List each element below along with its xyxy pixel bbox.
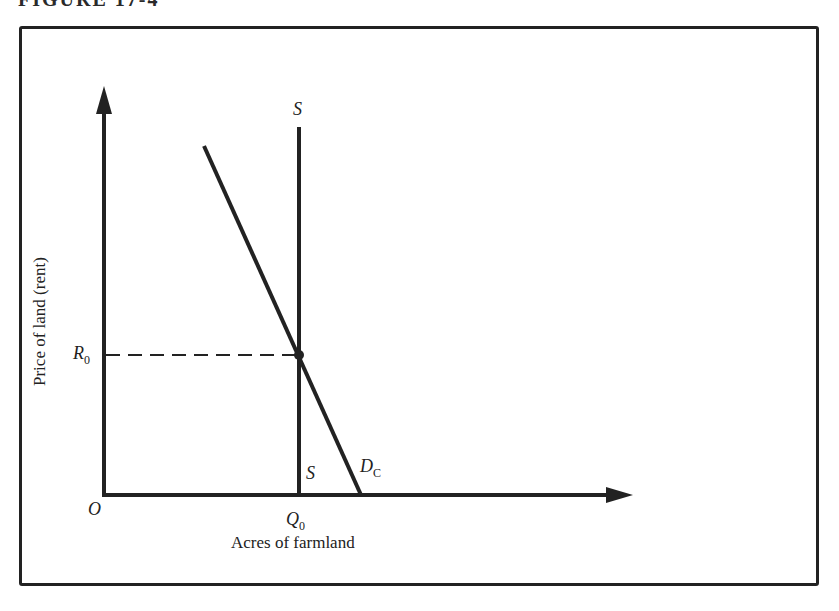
y-axis-title: Price of land (rent) — [30, 257, 50, 386]
demand-label-text: D — [360, 456, 373, 476]
supply-label-bottom: S — [306, 464, 315, 482]
demand-label-sub: C — [373, 466, 381, 480]
quantity-label-sub: 0 — [299, 519, 305, 533]
rent-label-sub: 0 — [84, 353, 90, 367]
x-axis-title: Acres of farmland — [231, 533, 355, 553]
quantity-label-text: Q — [286, 509, 299, 529]
x-axis-arrow-icon — [606, 487, 633, 503]
quantity-label: Q0 — [286, 510, 305, 532]
demand-label: DC — [360, 457, 381, 479]
demand-curve — [204, 146, 361, 495]
y-axis-arrow-icon — [96, 86, 112, 114]
supply-label-top: S — [293, 100, 302, 118]
rent-label-text: R — [73, 343, 84, 363]
origin-label: O — [88, 500, 101, 518]
supply-demand-diagram — [0, 0, 839, 611]
rent-label: R0 — [73, 344, 90, 366]
equilibrium-point — [294, 350, 304, 360]
